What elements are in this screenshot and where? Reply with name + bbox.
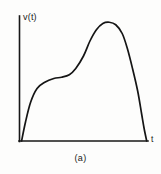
- y-axis-label: v(t): [23, 13, 37, 22]
- waveform-plot: [0, 0, 161, 174]
- figure-panel: v(t) t (a): [0, 0, 161, 174]
- figure-caption: (a): [0, 154, 161, 163]
- x-axis-label: t: [151, 135, 154, 144]
- voltage-waveform-curve: [22, 22, 147, 141]
